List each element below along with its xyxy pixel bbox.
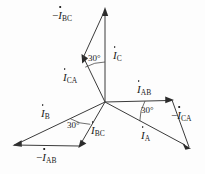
angle-label-b: 30°	[67, 120, 80, 130]
vector-i-c	[102, 7, 108, 102]
label-minus-i-bc: −IBC	[52, 10, 72, 21]
label-i-ab-subscript: AB	[141, 88, 152, 97]
label-i-bc-subscript: BC	[95, 129, 105, 138]
vector-minus-i-bc	[83, 12, 104, 58]
label-minus-i-ca: −ICA	[171, 110, 192, 121]
label-minus-i-bc-subscript: BC	[62, 14, 72, 23]
label-minus-i-ab: −IAB	[36, 152, 57, 163]
vector-minus-i-ab	[14, 145, 79, 146]
label-i-ca-subscript: CA	[67, 76, 78, 85]
label-i-bc: IBC	[91, 125, 105, 136]
label-i-c: IC	[113, 50, 122, 61]
label-i-a: IA	[141, 130, 150, 141]
angle-label-a: 30°	[141, 105, 154, 115]
label-i-ab: IAB	[137, 84, 152, 95]
label-i-c-subscript: C	[117, 54, 122, 63]
label-minus-i-ab-subscript: AB	[46, 156, 57, 165]
label-i-b-subscript: B	[45, 112, 50, 121]
vector-i-ab	[105, 96, 174, 103]
label-i-b: IB	[41, 108, 50, 119]
phasor-vector-canvas	[0, 0, 205, 174]
label-i-a-subscript: A	[145, 134, 151, 143]
label-i-ca: ICA	[63, 72, 78, 83]
phasor-diagram: −IBC IC ICA IAB −ICA IB IBC IA −IAB 30° …	[0, 0, 205, 174]
angle-label-c: 30°	[88, 53, 101, 63]
label-minus-i-ca-subscript: CA	[181, 114, 192, 123]
